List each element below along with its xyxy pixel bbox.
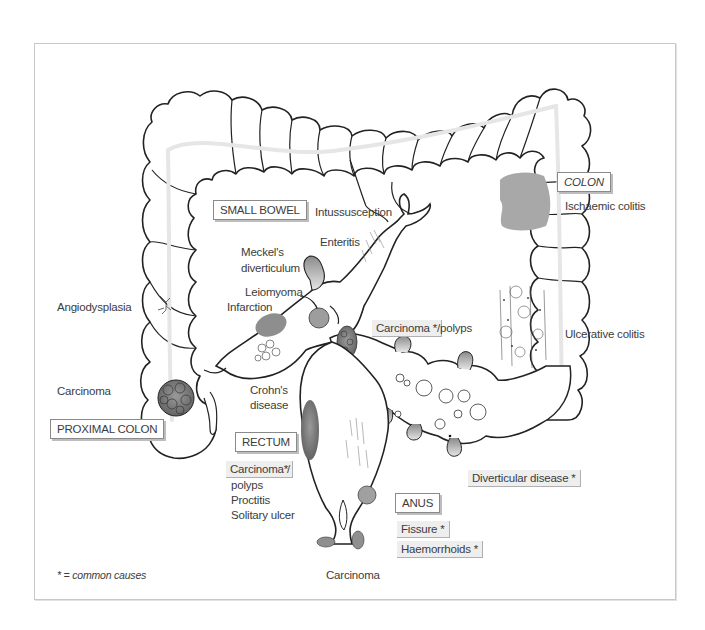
label-solitary-ulcer: Solitary ulcer: [231, 508, 295, 522]
label-leiomyoma: Leiomyoma: [245, 285, 303, 299]
ischaemic-colitis-patch: [500, 173, 550, 231]
section-label-anus: ANUS: [395, 493, 440, 513]
label-carcinoma-anal: Carcinoma: [326, 568, 380, 582]
label-enteritis: Enteritis: [320, 235, 360, 249]
label-carcinoma-sigmoid-suffix: /polyps: [437, 321, 472, 335]
proximal-carcinoma-mass: [158, 380, 194, 416]
legend-common-causes: * = common causes: [57, 568, 146, 582]
section-label-small-bowel: SMALL BOWEL: [213, 200, 307, 220]
label-carcinoma-sigmoid: Carcinoma *: [372, 320, 442, 337]
label-infarction: Infarction: [227, 300, 272, 314]
label-diverticular-disease: Diverticular disease *: [468, 470, 581, 487]
label-proctitis: Proctitis: [231, 493, 270, 507]
gastrointestinal-tract-illustration: [0, 0, 705, 630]
label-crohns-line1: Crohn's: [250, 383, 288, 397]
label-angiodysplasia: Angiodysplasia: [57, 300, 132, 314]
label-crohns-line2: disease: [250, 398, 288, 412]
rectal-carcinoma-mass: [301, 400, 319, 460]
label-intussusception: Intussusception: [315, 205, 392, 219]
solitary-ulcer: [358, 486, 376, 504]
label-ischaemic-colitis: Ischaemic colitis: [565, 199, 645, 213]
label-ulcerative-colitis: Ulcerative colitis: [565, 327, 644, 341]
label-carcinoma-rectum: Carcinoma*: [226, 461, 293, 478]
label-meckels-line2: diverticulum: [241, 261, 300, 275]
label-haemorrhoids: Haemorrhoids *: [397, 541, 483, 558]
section-label-colon: COLON: [557, 172, 611, 192]
label-carcinoma-rectum-suffix: /: [287, 462, 290, 476]
leiomyoma-mass: [309, 308, 329, 328]
label-polyps: polyps: [231, 478, 263, 492]
section-label-proximal-colon: PROXIMAL COLON: [50, 419, 164, 439]
label-fissure: Fissure *: [397, 521, 450, 538]
label-meckels-line1: Meckel's: [241, 245, 284, 259]
label-carcinoma-proximal: Carcinoma: [57, 384, 111, 398]
meckels-diverticulum: [304, 256, 324, 290]
section-label-rectum: RECTUM: [235, 432, 297, 452]
